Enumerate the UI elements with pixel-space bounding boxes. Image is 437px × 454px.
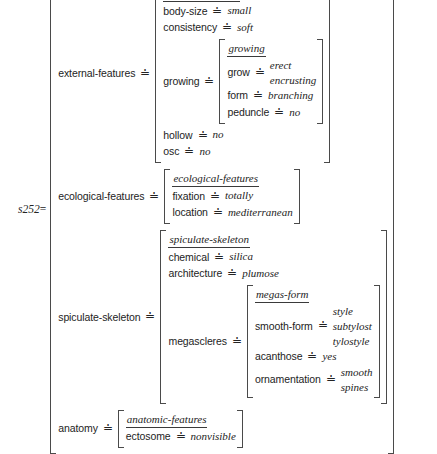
attr-chemical: chemical: [168, 250, 209, 265]
relation-icon: ≐: [179, 143, 199, 160]
relation-icon: ≐: [269, 104, 289, 121]
relation-icon: ≐: [199, 73, 219, 90]
value-smooth-form-2: subtylost: [333, 319, 372, 334]
row-spiculate-skeleton: spiculate-skeleton ≐ spiculate-skeleton …: [58, 230, 386, 404]
avm-anatomy-body: anatomic-features ectosome ≐ nonvisible: [126, 413, 236, 445]
row-acanthose: acanthose ≐ yes: [255, 349, 373, 366]
attr-body-size: body-size: [163, 4, 207, 19]
row-osc: osc ≐ no: [163, 144, 323, 161]
root-label-equals: =: [40, 203, 47, 215]
value-ectosome: nonvisible: [191, 429, 236, 445]
type-growing: growing: [227, 42, 265, 57]
attr-osc: osc: [163, 144, 179, 159]
avm-spiculate-skeleton: spiculate-skeleton chemical ≐ silica arc…: [160, 230, 386, 404]
row-grow: grow ≐ erect encrusting: [227, 58, 316, 88]
relation-icon: ≐: [208, 204, 228, 221]
value-peduncle: no: [289, 105, 300, 121]
attr-fixation: fixation: [172, 189, 204, 204]
value-grow: erect encrusting: [270, 58, 316, 88]
row-peduncle: peduncle ≐ no: [227, 104, 316, 121]
relation-icon: ≐: [302, 348, 322, 365]
row-ecological-features: ecological-features ≐ ecological-feature…: [58, 169, 386, 224]
root-label: s252=: [0, 203, 50, 215]
avm-external-features: external-features body-size ≐ small cons…: [155, 0, 330, 163]
avm-ecological-features-body: ecological-features fixation ≐ totally l…: [172, 172, 292, 221]
avm-external-features-body: external-features body-size ≐ small cons…: [163, 0, 323, 160]
value-smooth-form: style subtylost tylostyle: [333, 304, 372, 349]
avm-megascleres: megas-form smooth-form ≐ style subtylost…: [247, 285, 380, 398]
row-smooth-form: smooth-form ≐ style subtylost tylostyle: [255, 304, 373, 349]
relation-icon: ≐: [98, 420, 118, 437]
value-smooth-form-1: style: [333, 304, 372, 319]
value-acanthose: yes: [322, 349, 336, 365]
avm-megascleres-body: megas-form smooth-form ≐ style subtylost…: [255, 288, 373, 395]
value-form: branching: [268, 88, 313, 104]
row-anatomy: anatomy ≐ anatomic-features ectosome ≐ n…: [58, 410, 386, 448]
relation-icon: ≐: [227, 333, 247, 350]
avm-growing-body: growing grow ≐ erect encrusting: [227, 42, 316, 121]
value-grow-1: erect: [270, 58, 316, 73]
relation-icon: ≐: [313, 317, 333, 334]
relation-icon: ≐: [144, 188, 164, 205]
attr-consistency: consistency: [163, 20, 217, 35]
value-grow-2: encrusting: [270, 73, 316, 88]
row-ornamentation: ornamentation ≐ smooth spines: [255, 365, 373, 395]
relation-icon: ≐: [140, 308, 160, 325]
root-label-symbol: s252: [18, 203, 40, 215]
attr-spiculate-skeleton: spiculate-skeleton: [58, 310, 140, 325]
row-architecture: architecture ≐ plumose: [168, 266, 379, 283]
attr-ecological-features: ecological-features: [58, 189, 144, 204]
relation-icon: ≐: [217, 19, 237, 36]
row-body-size: body-size ≐ small: [163, 3, 323, 20]
avm-growing: growing grow ≐ erect encrusting: [219, 39, 323, 124]
relation-icon: ≐: [207, 3, 227, 20]
relation-icon: ≐: [205, 188, 225, 205]
row-growing: growing ≐ growing grow ≐ erect: [163, 39, 323, 124]
value-ornamentation-1: smooth: [341, 365, 373, 380]
row-external-features: external-features ≐ external-features bo…: [58, 0, 386, 163]
relation-icon: ≐: [222, 265, 242, 282]
attr-location: location: [172, 205, 207, 220]
relation-icon: ≐: [171, 428, 191, 445]
value-smooth-form-3: tylostyle: [333, 334, 372, 349]
relation-icon: ≐: [209, 249, 229, 266]
relation-icon: ≐: [250, 64, 270, 81]
avm-sponge-body: sponge external-features ≐ external-feat…: [58, 0, 386, 451]
attr-hollow: hollow: [163, 128, 192, 143]
value-consistency: soft: [237, 20, 253, 36]
row-form: form ≐ branching: [227, 88, 316, 105]
attr-megascleres: megascleres: [168, 334, 226, 349]
type-external-features: external-features: [163, 0, 240, 2]
avm-sponge: sponge external-features ≐ external-feat…: [50, 0, 393, 454]
value-ornamentation-2: spines: [341, 380, 373, 395]
relation-icon: ≐: [321, 371, 341, 388]
relation-icon: ≐: [135, 65, 155, 82]
avm-spiculate-skeleton-body: spiculate-skeleton chemical ≐ silica arc…: [168, 233, 379, 401]
row-fixation: fixation ≐ totally: [172, 188, 292, 205]
attr-anatomy: anatomy: [58, 421, 98, 436]
type-spiculate-skeleton: spiculate-skeleton: [168, 233, 249, 248]
attr-ectosome: ectosome: [126, 429, 171, 444]
value-body-size: small: [227, 3, 251, 19]
value-osc: no: [199, 144, 210, 160]
attr-form: form: [227, 88, 248, 103]
row-hollow: hollow ≐ no: [163, 127, 323, 144]
attr-acanthose: acanthose: [255, 349, 303, 364]
attr-peduncle: peduncle: [227, 105, 269, 120]
type-megas-form: megas-form: [255, 288, 310, 303]
row-megascleres: megascleres ≐ megas-form smooth-form ≐: [168, 285, 379, 398]
relation-icon: ≐: [248, 87, 268, 104]
row-location: location ≐ mediterranean: [172, 205, 292, 222]
value-ornamentation: smooth spines: [341, 365, 373, 395]
attr-growing: growing: [163, 74, 199, 89]
row-ectosome: ectosome ≐ nonvisible: [126, 429, 236, 446]
attr-smooth-form: smooth-form: [255, 319, 313, 334]
type-anatomic-features: anatomic-features: [126, 413, 208, 428]
avm-anatomy: anatomic-features ectosome ≐ nonvisible: [118, 410, 243, 448]
value-architecture: plumose: [242, 266, 279, 282]
avm-ecological-features: ecological-features fixation ≐ totally l…: [164, 169, 299, 224]
row-consistency: consistency ≐ soft: [163, 20, 323, 37]
value-hollow: no: [213, 127, 224, 143]
value-chemical: silica: [229, 249, 253, 265]
